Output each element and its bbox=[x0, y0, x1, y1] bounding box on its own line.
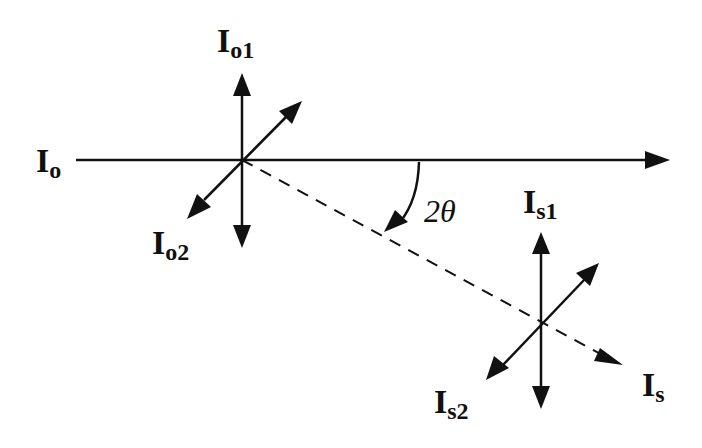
label-scattered-2: Is2 bbox=[434, 383, 469, 424]
label-incident-1: Io1 bbox=[217, 22, 254, 63]
label-scattered: Is bbox=[642, 366, 665, 407]
label-incident-2: Io2 bbox=[152, 224, 189, 265]
scattering-diagram: Io Io1 Io2 2θ Is1 Is2 Is bbox=[0, 0, 702, 448]
label-scattered-1: Is1 bbox=[523, 183, 558, 224]
scattered-beam-arrow bbox=[242, 160, 623, 365]
angle-arc-arrow bbox=[384, 162, 419, 232]
scattered-vertical-polarization-arrow bbox=[532, 232, 550, 409]
incident-beam-arrow bbox=[76, 151, 670, 169]
diagram-canvas: Io Io1 Io2 2θ Is1 Is2 Is bbox=[0, 0, 702, 448]
label-angle: 2θ bbox=[424, 193, 456, 229]
label-incident: Io bbox=[36, 142, 61, 183]
